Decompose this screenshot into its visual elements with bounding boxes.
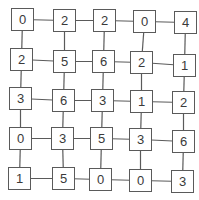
node-r2-c3: 1: [130, 90, 153, 113]
node-r2-c2: 3: [91, 89, 114, 112]
node-r3-c2: 5: [90, 127, 113, 150]
node-r3-c3: 3: [129, 128, 152, 151]
node-r0-c1: 2: [53, 9, 76, 32]
node-r4-c3: 0: [129, 169, 152, 192]
node-r0-c4: 4: [174, 11, 197, 34]
node-r2-c0: 3: [9, 87, 32, 110]
grid-diagram: 0 2 2 0 4 2 5 6 2 1 3 6 3 1 2 0 3 5 3 6 …: [0, 0, 199, 200]
node-r1-c2: 6: [92, 50, 115, 73]
node-r3-c4: 6: [172, 130, 195, 153]
node-r1-c0: 2: [10, 48, 33, 71]
node-r1-c3: 2: [130, 51, 153, 74]
node-r1-c4: 1: [173, 54, 196, 77]
node-r2-c1: 6: [52, 89, 75, 112]
node-r4-c2: 0: [89, 168, 112, 191]
node-r4-c4: 3: [171, 170, 194, 193]
node-r3-c0: 0: [9, 127, 32, 150]
node-r3-c1: 3: [51, 127, 74, 150]
node-r0-c2: 2: [93, 9, 116, 32]
node-r0-c0: 0: [11, 8, 34, 31]
node-r1-c1: 5: [53, 50, 76, 73]
node-r4-c1: 5: [52, 167, 75, 190]
node-r2-c4: 2: [172, 91, 195, 114]
node-r4-c0: 1: [8, 167, 31, 190]
node-r0-c3: 0: [133, 10, 156, 33]
